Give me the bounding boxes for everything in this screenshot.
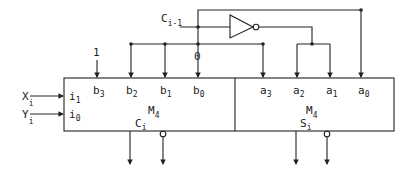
junction-dot: [196, 25, 200, 29]
a0-pin-label: a0: [358, 84, 370, 99]
a2-pin-label: a2: [293, 84, 305, 99]
b2-pin-label: b2: [126, 84, 138, 99]
junction-dot: [163, 42, 167, 46]
b3-pin-label: b3: [93, 84, 105, 99]
junction-dot: [129, 42, 133, 46]
b0-pin-label: b0: [193, 84, 205, 99]
left-m4-label: M4: [148, 104, 160, 120]
circuit-diagram: Ci-1 1 0 b3 b2 b1 b0 a3 a2 a1 a0 Xi Yi i…: [0, 0, 420, 176]
i0-pin-label: i0: [69, 108, 81, 123]
right-m4-label: M4: [306, 104, 318, 120]
inverter-gate: [230, 15, 253, 38]
xi-input-label: Xi: [22, 90, 34, 108]
ci-inverted-bubble: [160, 131, 166, 137]
carry-in-label: Ci-1: [161, 12, 182, 28]
junction-dot: [310, 42, 314, 46]
i1-pin-label: i1: [69, 90, 81, 105]
multiplexer-block-outline: [64, 78, 394, 131]
ci-output-label: Ci: [135, 117, 147, 132]
b1-pin-label: b1: [160, 84, 172, 99]
junction-dot: [359, 8, 363, 12]
si-output-label: Si: [300, 117, 312, 132]
inverter-output-wire: [259, 27, 312, 44]
const-one-label: 1: [93, 46, 100, 59]
si-inverted-bubble: [324, 131, 330, 137]
const-zero-label: 0: [194, 50, 201, 63]
yi-input-label: Yi: [22, 108, 34, 126]
junction-dot: [196, 42, 200, 46]
a1-pin-label: a1: [326, 84, 338, 99]
a3-pin-label: a3: [260, 84, 272, 99]
junction-dot: [261, 42, 265, 46]
